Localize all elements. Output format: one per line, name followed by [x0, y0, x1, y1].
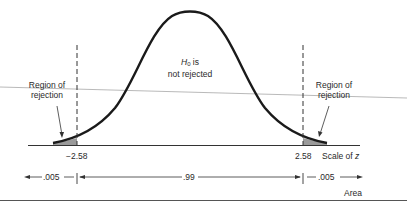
right-critical-value: 2.58 [295, 151, 312, 161]
left-tail-arrowhead [24, 175, 30, 179]
center-right-arrowhead [295, 175, 301, 179]
h0-label: H0 is not rejected [155, 57, 225, 79]
center-left-arrowhead [79, 175, 85, 179]
left-tail-area: .005 [43, 172, 60, 182]
right-pointer-arrow [320, 106, 329, 134]
not-rejected-text: not rejected [168, 69, 212, 79]
left-pointer-arrow [57, 106, 62, 135]
normal-distribution-diagram [0, 0, 407, 210]
center-area: .99 [183, 172, 195, 182]
area-label: Area [344, 188, 362, 198]
left-critical-value: −2.58 [66, 151, 88, 161]
right-tail-arrowhead [357, 175, 363, 179]
scale-of-z-label: Scale of z [322, 151, 359, 161]
left-region-label: Region of rejection [22, 80, 72, 100]
right-tail-area: .005 [318, 172, 335, 182]
right-region-label: Region of rejection [308, 80, 360, 100]
